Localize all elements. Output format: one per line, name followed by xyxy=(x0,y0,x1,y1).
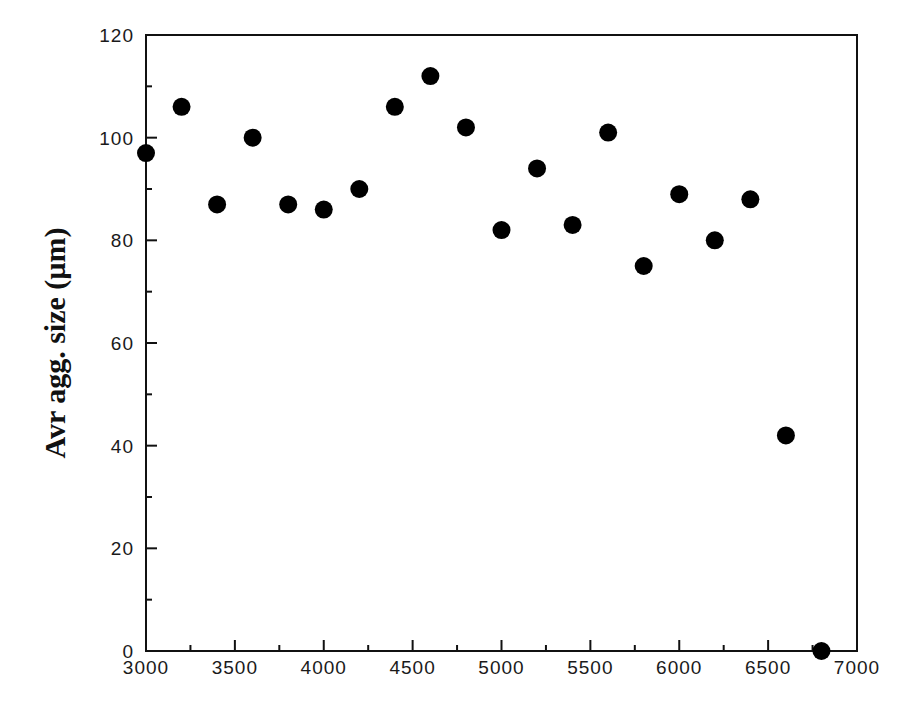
data-point xyxy=(564,216,582,234)
data-point xyxy=(244,129,262,147)
x-tick-label: 5000 xyxy=(478,657,524,678)
y-tick-label: 80 xyxy=(111,230,134,251)
x-axis-tick-labels: 300035004000450050005500600065007000 xyxy=(123,657,880,678)
data-point xyxy=(741,190,759,208)
data-point xyxy=(421,67,439,85)
data-point xyxy=(599,124,617,142)
y-tick-label: 100 xyxy=(99,128,134,149)
data-point xyxy=(279,195,297,213)
x-tick-label: 7000 xyxy=(834,657,880,678)
x-tick-label: 4500 xyxy=(389,657,435,678)
y-tick-label: 120 xyxy=(99,25,134,46)
data-point xyxy=(386,98,404,116)
plot-area-frame xyxy=(146,35,857,651)
x-tick-label: 5500 xyxy=(567,657,613,678)
y-tick-label: 40 xyxy=(111,436,134,457)
x-tick-label: 6500 xyxy=(745,657,791,678)
data-point xyxy=(173,98,191,116)
data-point xyxy=(350,180,368,198)
data-point xyxy=(528,159,546,177)
x-tick-label: 6000 xyxy=(656,657,702,678)
x-tick-label: 3500 xyxy=(212,657,258,678)
data-point xyxy=(208,195,226,213)
data-point xyxy=(670,185,688,203)
y-tick-label: 20 xyxy=(111,538,134,559)
y-axis-title: Avr agg. size (µm) xyxy=(38,227,72,458)
data-point xyxy=(315,201,333,219)
scatter-chart: 020406080100120 300035004000450050005500… xyxy=(0,0,915,724)
y-axis-ticks xyxy=(146,86,157,599)
y-axis-tick-labels: 020406080100120 xyxy=(99,25,134,662)
x-axis-ticks xyxy=(190,640,812,651)
y-tick-label: 60 xyxy=(111,333,134,354)
data-point xyxy=(706,231,724,249)
data-point xyxy=(812,642,830,660)
data-point xyxy=(137,144,155,162)
data-point xyxy=(457,118,475,136)
x-tick-label: 4000 xyxy=(301,657,347,678)
data-points xyxy=(137,67,830,660)
x-tick-label: 3000 xyxy=(123,657,169,678)
data-point xyxy=(777,426,795,444)
data-point xyxy=(635,257,653,275)
data-point xyxy=(493,221,511,239)
